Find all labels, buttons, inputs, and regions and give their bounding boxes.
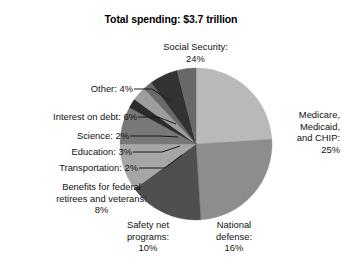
slice-label-safety-net: Safety net programs: 10% <box>110 219 186 254</box>
slice-label-benefits: Benefits for federal retirees and vetera… <box>37 181 166 216</box>
slice-label-interest-on-debt: Interest on debt: 6% <box>2 111 137 123</box>
pie-slice <box>196 68 272 144</box>
slice-label-medicare: Medicare, Medicaid, and CHIP: 25% <box>262 109 340 155</box>
slice-label-other: Other: 4% <box>2 83 133 95</box>
slice-label-national-defense: National defense: 16% <box>198 219 270 254</box>
slice-label-education: Education: 3% <box>2 146 132 158</box>
slice-label-science: Science: 2% <box>2 130 129 142</box>
pie-chart-figure: Total spending: $3.7 trillion Social Sec… <box>0 0 342 262</box>
slice-label-transportation: Transportation: 2% <box>2 162 138 174</box>
pie-slice <box>196 139 272 220</box>
slice-label-social-security: Social Security: 24% <box>133 41 258 64</box>
